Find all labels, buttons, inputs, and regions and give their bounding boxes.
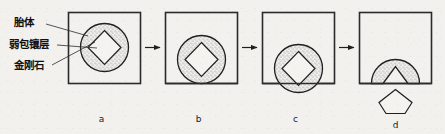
panel-b: [166, 13, 238, 84]
panel-c: [263, 13, 335, 93]
label-diamond: 金刚石: [13, 59, 45, 71]
panel-a: [69, 13, 141, 84]
label-weak-layer: 弱包镶层: [9, 38, 50, 50]
caption-d: d: [393, 120, 399, 130]
caption-a: a: [99, 114, 105, 124]
panel-d-matrix-body: [360, 13, 432, 84]
figure-root: 胎体 弱包镶层 金刚石 a b c d: [0, 0, 445, 134]
caption-c: c: [293, 114, 298, 124]
panel-d-dislodged-diamond: [379, 90, 412, 114]
process-diagram: 胎体 弱包镶层 金刚石 a b c d: [0, 0, 445, 134]
panel-d: [360, 13, 432, 114]
label-matrix: 胎体: [13, 16, 35, 28]
caption-b: b: [196, 114, 202, 124]
